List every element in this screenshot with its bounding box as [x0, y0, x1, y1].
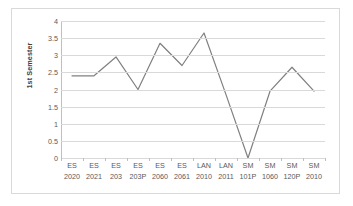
y-axis-tick-label: 1: [34, 119, 58, 128]
y-axis-tick-label: 4: [34, 17, 58, 26]
y-axis-tick-label: 1.5: [34, 102, 58, 111]
y-axis-tick-label: 3: [34, 51, 58, 60]
x-label-line-1: SM: [294, 161, 334, 172]
y-axis-tick-label: 3.5: [34, 34, 58, 43]
y-axis-tick-label: 2: [34, 85, 58, 94]
gridline: [61, 141, 325, 142]
gridline: [61, 21, 325, 22]
gridline: [61, 124, 325, 125]
series-polyline: [72, 33, 314, 158]
gridline: [61, 72, 325, 73]
y-axis-tick-label: 0.5: [34, 136, 58, 145]
plot-area: [61, 21, 325, 158]
y-axis-title: 1st Semester: [25, 21, 34, 111]
x-axis-tick-label: SM2010: [294, 161, 334, 182]
y-axis-tick-label: 2.5: [34, 68, 58, 77]
gridline: [61, 90, 325, 91]
chart-container: 1st Semester 43.532.521.510.50 ES2020ES2…: [11, 8, 340, 194]
x-axis-tick-labels: ES2020ES2021ES203ES203PES2060ES2061LAN20…: [61, 161, 325, 193]
gridline: [61, 107, 325, 108]
gridline: [61, 55, 325, 56]
x-label-line-2: 2010: [294, 172, 334, 183]
gridline: [61, 38, 325, 39]
